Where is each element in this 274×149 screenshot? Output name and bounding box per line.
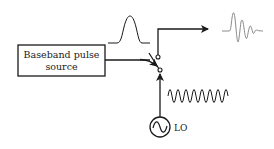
lo-label: LO (174, 123, 187, 133)
diagram-canvas: Baseband pulse source LO (0, 0, 274, 149)
modulated-wavelet-icon (222, 13, 263, 42)
switch-terminal-lower (158, 68, 162, 72)
input-arrow (105, 60, 157, 67)
block-label-line2: source (45, 61, 78, 72)
baseband-pulse-source-block: Baseband pulse source (18, 45, 105, 76)
output-arrow (158, 29, 208, 55)
local-oscillator: LO (150, 117, 187, 137)
block-label-line1: Baseband pulse (24, 49, 100, 60)
switch-terminal-upper (156, 55, 160, 59)
gaussian-pulse-icon (108, 16, 150, 43)
lo-sinusoid-icon (168, 90, 228, 103)
